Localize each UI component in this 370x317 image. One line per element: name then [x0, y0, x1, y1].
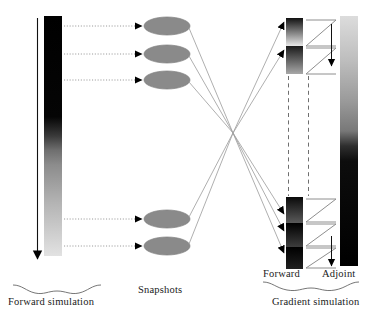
restore-connector-group	[189, 22, 284, 253]
adjoint-simulation-bar	[340, 16, 358, 266]
diagram-svg	[0, 0, 370, 317]
restore-connector-3	[189, 82, 284, 253]
forward-simulation-bar	[44, 16, 62, 256]
restore-connector-4	[189, 22, 284, 217]
gradient-simulation-label: Gradient simulation	[272, 296, 360, 307]
forward-segment-5	[286, 247, 303, 269]
forward-label: Forward	[263, 268, 300, 279]
snapshot-ellipse-4[interactable]	[144, 210, 190, 228]
snapshots-label: Snapshots	[138, 284, 182, 295]
adjoint-label: Adjoint	[322, 268, 356, 279]
snapshot-ellipse-5[interactable]	[144, 237, 190, 255]
brace-forward-simulation	[13, 285, 101, 294]
forward-simulation-label: Forward simulation	[8, 296, 94, 307]
restore-connector-1	[189, 28, 284, 231]
forward-segment-1	[286, 18, 303, 46]
forward-segment-2	[286, 46, 303, 74]
forward-segment-3	[286, 197, 303, 223]
snapshot-ellipse-2[interactable]	[144, 45, 190, 63]
forward-segment-4	[286, 223, 303, 247]
diagram-canvas: Snapshots Forward simulation Forward Adj…	[0, 0, 370, 317]
restore-connector-5	[189, 50, 284, 244]
brace-gradient-simulation	[263, 282, 359, 291]
snapshot-ellipse-3[interactable]	[144, 71, 190, 89]
snapshot-feed-arrow-group	[64, 26, 142, 246]
snapshot-ellipse-1[interactable]	[144, 17, 190, 35]
zigzag-path-3	[306, 199, 336, 222]
snapshot-group	[144, 17, 190, 255]
